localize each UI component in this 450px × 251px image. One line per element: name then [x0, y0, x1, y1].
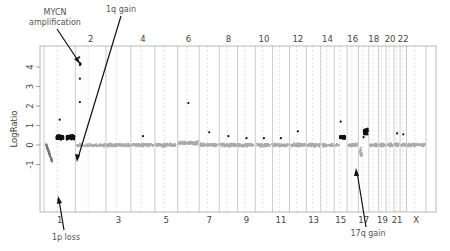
arrow-head-icon [75, 154, 80, 162]
annotation-17q-text: 17q gain [350, 229, 385, 238]
y-tick-label: 3 [25, 84, 35, 89]
y-tick-label: 2 [25, 103, 35, 108]
chrom-label-18: 18 [368, 34, 379, 44]
cgh-chart: -101234 246810121416182022 1357911131517… [0, 0, 450, 251]
arrow-head-icon [57, 196, 62, 204]
chrom-label-21: 21 [392, 215, 403, 225]
annotation-17q: 17q gain [350, 168, 385, 238]
arrow-line [57, 29, 79, 62]
y-tick-label: 0 [25, 142, 35, 147]
annotation-mycn-line1: MYCN [44, 8, 67, 17]
y-tick-label: 4 [25, 64, 35, 69]
chrom-label-14: 14 [322, 34, 333, 44]
chrom-label-X: X [413, 215, 419, 225]
chrom-label-3: 3 [116, 215, 121, 225]
y-tick-label: -1 [25, 160, 35, 168]
chrom-label-4: 4 [140, 34, 145, 44]
chrom-label-15: 15 [335, 215, 346, 225]
chrom-label-6: 6 [186, 34, 191, 44]
annotation-1q-text: 1q gain [106, 5, 136, 14]
plot-frame [40, 46, 436, 212]
chrom-label-16: 16 [347, 34, 358, 44]
top-chrom-labels: 246810121416182022 [88, 34, 409, 44]
annotation-mycn-line2: amplification [29, 18, 81, 27]
chrom-label-7: 7 [206, 215, 211, 225]
chrom-label-22: 22 [398, 34, 409, 44]
y-axis-label: LogRatio [9, 110, 19, 147]
chrom-label-12: 12 [292, 34, 303, 44]
annotation-1q: 1q gain [75, 5, 136, 162]
chrom-label-13: 13 [308, 215, 319, 225]
chrom-label-8: 8 [226, 34, 231, 44]
chrom-label-19: 19 [377, 215, 388, 225]
y-axis: -101234 [25, 64, 40, 168]
annotation-1p-text: 1p loss [52, 233, 80, 242]
annotation-mycn: MYCN amplification [29, 8, 81, 64]
y-tick-label: 1 [25, 123, 35, 128]
chrom-label-11: 11 [276, 215, 287, 225]
chrom-label-20: 20 [385, 34, 396, 44]
chrom-label-2: 2 [88, 34, 93, 44]
arrow-line [78, 16, 121, 158]
chrom-label-17: 17 [358, 215, 369, 225]
chrom-label-5: 5 [164, 215, 169, 225]
chrom-label-10: 10 [258, 34, 269, 44]
chrom-label-9: 9 [244, 215, 249, 225]
